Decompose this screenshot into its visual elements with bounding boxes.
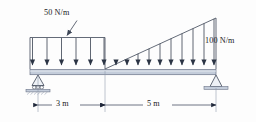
dimension-label-3m: 3 m xyxy=(56,99,69,108)
triangular-load-label: 100 N/m xyxy=(205,36,235,45)
uniform-distributed-load xyxy=(30,21,105,70)
triangular-distributed-load xyxy=(105,18,216,69)
beam-diagram-canvas xyxy=(0,0,256,122)
beam-member xyxy=(30,70,216,75)
uniform-load-arrows xyxy=(33,38,105,65)
beam-diagram: 50 N/m 100 N/m 3 m 5 m xyxy=(0,0,256,122)
dimension-label-5m: 5 m xyxy=(147,99,160,108)
ground-hatching xyxy=(27,92,48,95)
pin-support xyxy=(204,75,228,89)
uniform-load-label: 50 N/m xyxy=(44,8,69,17)
uniform-load-leader xyxy=(67,21,77,36)
